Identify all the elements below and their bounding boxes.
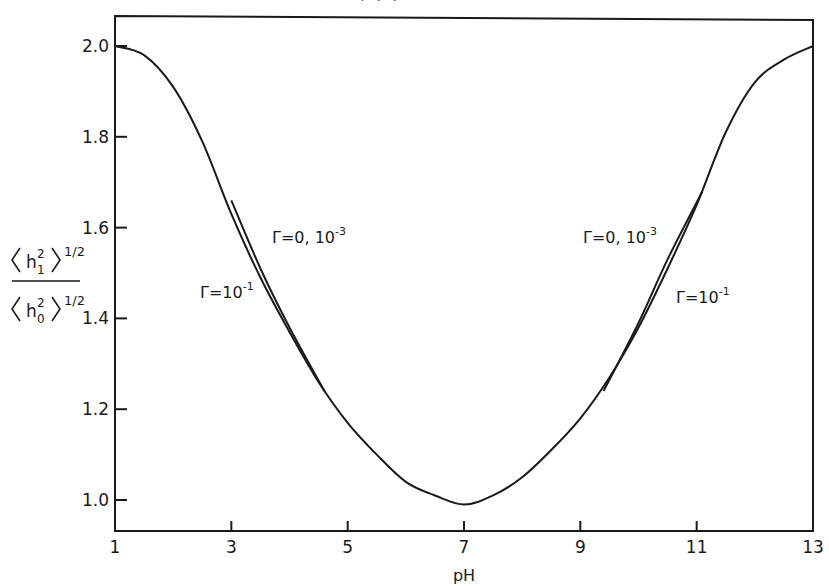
y-tick-label: 1.4: [82, 308, 109, 328]
svg-text:0: 0: [37, 312, 45, 326]
curve-annotation: Γ=0, 10-3: [272, 225, 346, 247]
curve-annotation: Γ=10-1: [200, 280, 254, 302]
x-tick-label: 11: [686, 537, 708, 557]
chart: 1.01.21.41.61.82.0 135791113 Γ=0, 10-3Γ=…: [0, 0, 829, 586]
y-axis-label: h211/2h201/2: [12, 244, 85, 326]
y-tick-label: 1.6: [82, 218, 109, 238]
plot-border: [115, 16, 813, 531]
svg-text:h: h: [26, 252, 37, 272]
y-tick-label: 2.0: [82, 36, 109, 56]
x-tick-label: 7: [459, 537, 470, 557]
y-tick-label: 1.8: [82, 127, 109, 147]
x-tick-label: 1: [110, 537, 121, 557]
svg-text:2: 2: [37, 296, 45, 310]
curve-gamma-1e-1: [115, 46, 813, 505]
x-tick-label: 3: [226, 537, 237, 557]
x-tick-label: 5: [342, 537, 353, 557]
y-axis: 1.01.21.41.61.82.0: [82, 36, 127, 510]
curves: [115, 46, 813, 505]
x-axis-label: pH: [453, 566, 475, 585]
svg-text:1: 1: [37, 263, 45, 277]
y-tick-label: 1.0: [82, 490, 109, 510]
x-tick-label: 13: [802, 537, 824, 557]
svg-text:h: h: [26, 301, 37, 321]
svg-text:1/2: 1/2: [64, 244, 85, 259]
annotations: Γ=0, 10-3Γ=10-1Γ=0, 10-3Γ=10-1: [200, 225, 730, 307]
y-tick-label: 1.2: [82, 399, 109, 419]
x-tick-label: 9: [575, 537, 586, 557]
x-axis: 135791113: [110, 521, 824, 557]
curve-annotation: Γ=10-1: [676, 285, 730, 307]
svg-text:2: 2: [37, 247, 45, 261]
plot-frame: [115, 16, 813, 531]
curve-annotation: Γ=0, 10-3: [583, 225, 657, 247]
svg-text:1/2: 1/2: [64, 293, 85, 308]
